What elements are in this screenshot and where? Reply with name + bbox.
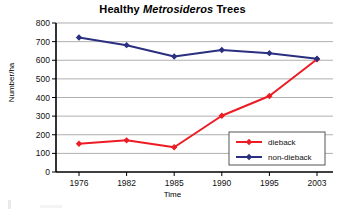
data-point-non-dieback	[76, 34, 82, 40]
plot-area: 0100200300400500600700800 19761982198519…	[0, 0, 345, 211]
y-tick-label: 0	[45, 167, 50, 177]
y-tick-label: 100	[36, 148, 50, 158]
y-tick-label: 700	[36, 37, 50, 47]
legend-label-dieback: dieback	[268, 138, 297, 147]
scan-artifact-left	[8, 200, 11, 209]
y-tick-label: 200	[36, 130, 50, 140]
y-tick-label: 500	[36, 74, 50, 84]
data-point-dieback	[123, 137, 129, 143]
y-tick-labels: 0100200300400500600700800	[36, 18, 50, 177]
series-line-non-dieback	[79, 38, 317, 59]
x-tick-label: 1982	[117, 178, 136, 188]
data-point-non-dieback	[123, 42, 129, 48]
data-point-non-dieback	[219, 47, 225, 53]
x-tick-label: 1976	[70, 178, 89, 188]
chart-container: Healthy Metrosideros Trees Number/ha Tim…	[0, 0, 345, 211]
y-tick-label: 600	[36, 55, 50, 65]
data-point-non-dieback	[171, 53, 177, 59]
scan-artifact-bottom	[40, 205, 62, 208]
x-tick-label: 1995	[260, 178, 279, 188]
legend-label-non-dieback: non-dieback	[268, 153, 313, 162]
y-tick-label: 300	[36, 111, 50, 121]
data-point-non-dieback	[266, 50, 272, 56]
y-tick-label: 800	[36, 18, 50, 28]
x-tick-labels: 197619821985199019952003	[70, 178, 327, 188]
y-tick-label: 400	[36, 93, 50, 103]
x-tick-label: 1990	[212, 178, 231, 188]
x-tick-label: 1985	[165, 178, 184, 188]
chart-legend: diebacknon-dieback	[229, 132, 325, 165]
data-point-dieback	[76, 140, 82, 146]
x-tick-label: 2003	[308, 178, 327, 188]
